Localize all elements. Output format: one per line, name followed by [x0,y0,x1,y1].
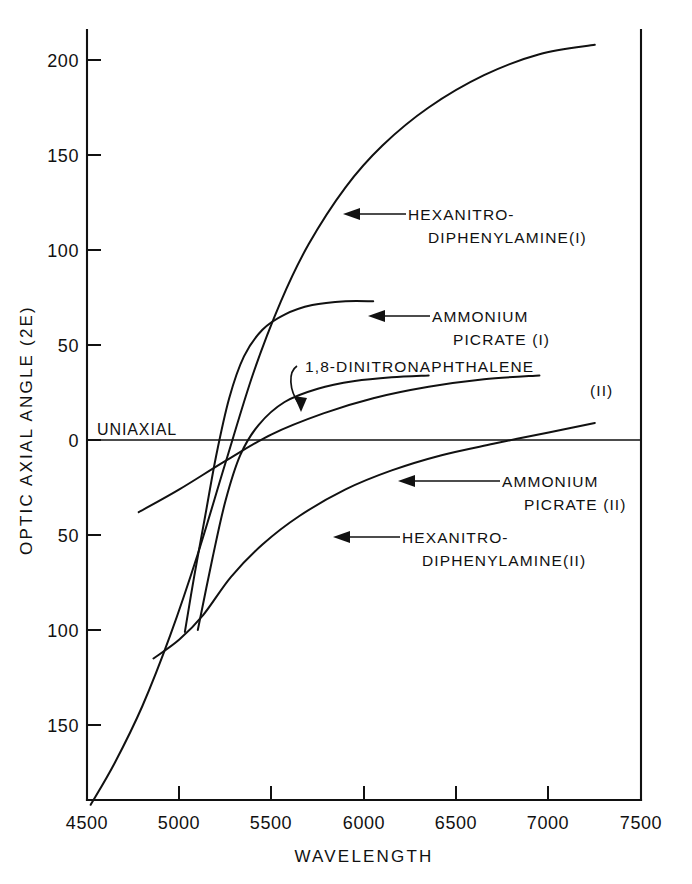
x-axis-title: WAVELENGTH [294,847,433,866]
x-tick-label-4500: 4500 [66,813,108,833]
curve-hexanitrodiphenylamine-2 [153,423,594,659]
label-hnd1-line2: DIPHENYLAMINE(I) [428,229,587,246]
x-tick-label-7500: 7500 [620,813,662,833]
arrowhead-ap1 [368,310,385,322]
label-ap2-line2: PICRATE (II) [524,496,626,513]
arrowhead-hnd1 [343,208,360,220]
label-dinitronaphthalene-line1: 1,8-DINITRONAPHTHALENE [305,358,534,375]
label-ap1-line2: PICRATE (I) [453,331,550,348]
y-tick-label-50: 50 [58,336,79,356]
label-ap1-line1: AMMONIUM [432,308,529,325]
label-hnd1-line1: HEXANITRO- [408,206,515,223]
arrowhead-hnd2 [333,531,350,543]
curve-labels: HEXANITRO- DIPHENYLAMINE(I) AMMONIUM PIC… [305,206,626,569]
chart-canvas: 200 150 100 50 0 50 100 150 4500 5000 55… [0,0,692,884]
label-hnd2-line1: HEXANITRO- [402,529,509,546]
y-tick-label-0: 0 [68,431,79,451]
x-axis-tick-labels: 4500 5000 5500 6000 6500 7000 7500 [66,813,662,833]
y-tick-label-150: 150 [47,146,79,166]
curve-ammonium-picrate-1 [185,301,373,632]
uniaxial-label: UNIAXIAL [97,421,177,438]
label-hnd2-line2: DIPHENYLAMINE(II) [422,552,586,569]
arrowhead-dinitronaphthalene [294,396,307,412]
arrowhead-ap2 [398,475,415,487]
label-dinitronaphthalene-line2: (II) [590,382,613,399]
y-axis-ticks [87,60,101,725]
y-tick-label-neg100: 100 [47,621,79,641]
x-tick-label-7000: 7000 [527,813,569,833]
x-tick-label-5000: 5000 [158,813,200,833]
y-axis-title: OPTIC AXIAL ANGLE (2E) [17,305,36,555]
y-tick-label-100: 100 [47,241,79,261]
annotation-leaders [291,208,500,543]
axes-frame [87,30,641,800]
x-tick-label-6000: 6000 [343,813,385,833]
y-tick-label-200: 200 [47,51,79,71]
figure-container: 200 150 100 50 0 50 100 150 4500 5000 55… [0,0,692,884]
curve-dinitronaphthalene-2 [198,375,429,630]
y-tick-label-neg50: 50 [58,526,79,546]
x-tick-label-6500: 6500 [435,813,477,833]
label-ap2-line1: AMMONIUM [502,473,599,490]
x-tick-label-5500: 5500 [250,813,292,833]
y-axis-tick-labels: 200 150 100 50 0 50 100 150 [47,51,79,736]
y-tick-label-neg150: 150 [47,716,79,736]
x-axis-ticks [87,786,641,800]
